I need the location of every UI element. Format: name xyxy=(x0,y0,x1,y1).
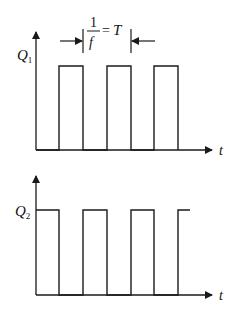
q1-plot: Q1 t 1 f = T xyxy=(17,15,224,158)
q2-time-label: t xyxy=(219,288,224,303)
period-annotation: 1 f = T xyxy=(60,15,155,53)
fraction-denominator: f xyxy=(89,35,95,50)
q2-plot: Q2 t xyxy=(15,176,224,303)
q1-time-label: t xyxy=(219,143,224,158)
q1-waveform xyxy=(36,66,178,150)
period-symbol: T xyxy=(113,22,123,38)
q2-waveform xyxy=(36,210,190,295)
q1-label: Q1 xyxy=(17,47,32,65)
equals-sign: = xyxy=(102,23,110,38)
timing-diagram: Q1 t 1 f = T Q2 t xyxy=(0,0,236,311)
q2-label: Q2 xyxy=(15,203,30,221)
fraction-numerator: 1 xyxy=(90,15,97,30)
